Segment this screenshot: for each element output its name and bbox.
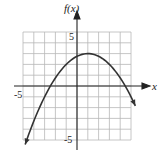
x-axis-label: x: [151, 80, 157, 92]
function-curve: [25, 54, 135, 145]
x-axis-arrow-icon: [142, 83, 150, 89]
y-tick-5: 5: [69, 31, 74, 42]
y-tick-neg5: -5: [64, 134, 72, 145]
x-tick-neg5: -5: [14, 89, 22, 100]
curve-arrow-icon: [25, 138, 30, 145]
chart-svg: f(x) x 5 -5 -5: [0, 0, 160, 155]
curve-end-arrows: [25, 99, 136, 144]
y-axis-label: f(x): [64, 2, 80, 15]
